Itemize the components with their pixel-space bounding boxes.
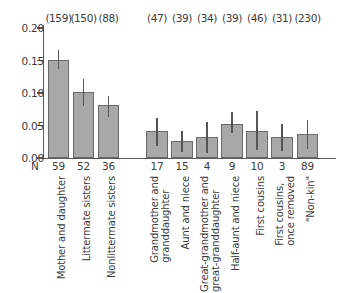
category-label: First cousins, once removed bbox=[275, 176, 296, 246]
error-bar bbox=[108, 96, 109, 117]
error-bar bbox=[58, 50, 59, 69]
error-bar bbox=[83, 79, 84, 106]
error-bar bbox=[281, 124, 282, 151]
bar-chart: 0.000.050.100.150.20 N (159)59Mother and… bbox=[0, 0, 340, 293]
category-label: Littermate sisters bbox=[82, 176, 93, 261]
category-label: Mother and daughter bbox=[57, 176, 68, 279]
bars-layer: (159)59Mother and daughter(150)52Litterm… bbox=[0, 0, 340, 293]
category-label: First cousins bbox=[256, 176, 267, 236]
error-bar bbox=[256, 111, 257, 151]
category-label: Great-grandmother and great-granddaughte… bbox=[200, 176, 221, 292]
category-label: Nonlittermate sisters bbox=[107, 176, 118, 278]
category-label: Half-aunt and niece bbox=[231, 176, 242, 271]
bar bbox=[48, 60, 70, 158]
bar-n-value: 89 bbox=[292, 161, 324, 172]
category-label: Aunt and niece bbox=[181, 176, 192, 249]
category-label: "Non-kin" bbox=[306, 176, 317, 222]
error-bar bbox=[181, 131, 182, 152]
error-bar bbox=[307, 120, 308, 149]
bar-n-value: 36 bbox=[93, 161, 125, 172]
bar-count-label: (88) bbox=[85, 13, 133, 24]
error-bar bbox=[156, 118, 157, 146]
bar-count-label: (230) bbox=[284, 13, 332, 24]
error-bar bbox=[231, 112, 232, 133]
category-label: Grandmother and granddaughter bbox=[150, 176, 171, 263]
error-bar bbox=[206, 122, 207, 153]
